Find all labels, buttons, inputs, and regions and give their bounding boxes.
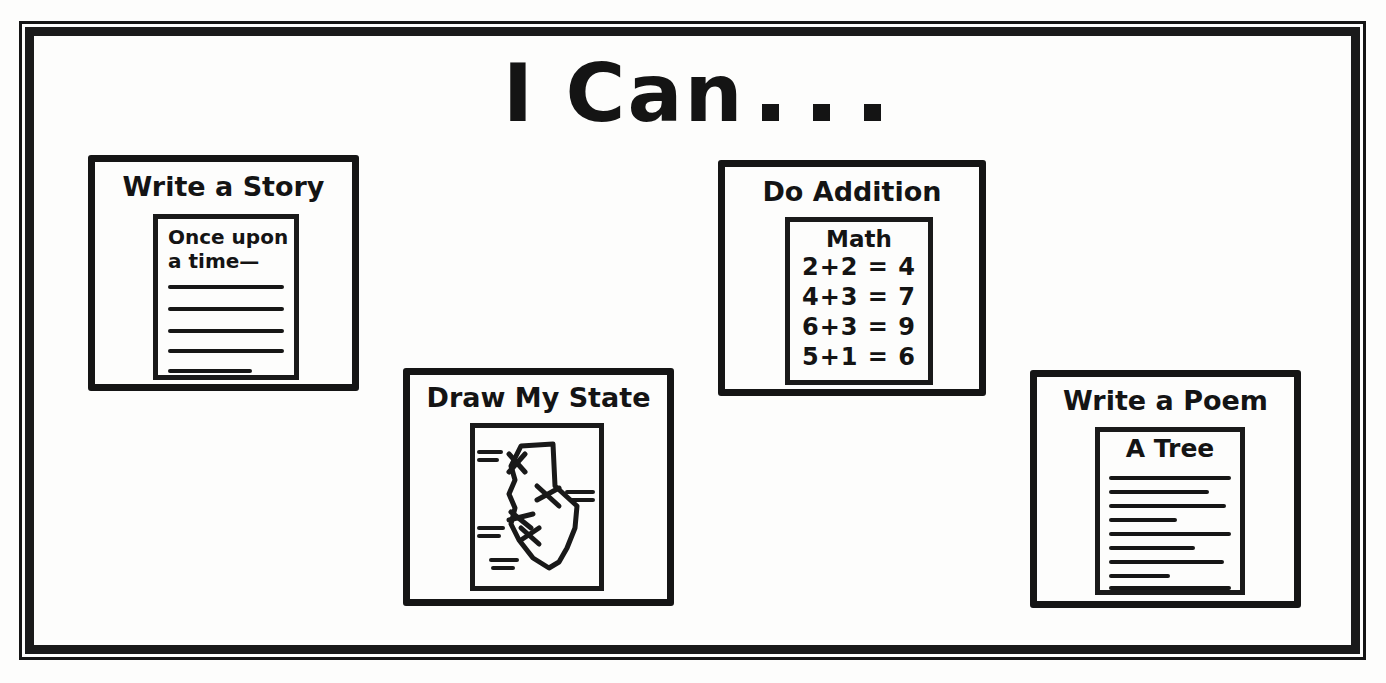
story-rule-1	[168, 285, 284, 289]
story-paper: Once upon a time—	[153, 214, 299, 380]
scan-edge-artifact	[0, 663, 1386, 683]
story-rule-4	[168, 349, 284, 353]
state-drawing-paper	[470, 423, 604, 591]
story-rule-3	[168, 329, 284, 333]
poem-rule-3	[1109, 504, 1226, 508]
math-problem-1: 2+2 = 4	[790, 254, 928, 280]
panel-do-addition[interactable]: Do Addition Math 2+2 = 4 4+3 = 7 6+3 = 9…	[718, 160, 986, 396]
poem-rule-4	[1109, 518, 1177, 522]
poem-rule-7	[1109, 560, 1224, 564]
math-problem-4: 5+1 = 6	[790, 344, 928, 370]
state-outline-icon	[475, 428, 599, 586]
math-problem-2: 4+3 = 7	[790, 284, 928, 310]
poem-rule-9	[1109, 586, 1231, 590]
panel-title-write-a-poem: Write a Poem	[1037, 386, 1294, 416]
math-heading: Math	[790, 226, 928, 252]
poem-rule-6	[1109, 546, 1195, 550]
poem-rule-1	[1109, 476, 1231, 480]
story-text-line-2: a time—	[168, 249, 259, 273]
panel-write-a-story[interactable]: Write a Story Once upon a time—	[88, 155, 359, 391]
poem-rule-5	[1109, 532, 1231, 536]
panel-draw-my-state[interactable]: Draw My State	[403, 368, 674, 606]
story-text-line-1: Once upon	[168, 225, 288, 249]
poem-rule-8	[1109, 574, 1170, 578]
panel-title-draw-my-state: Draw My State	[410, 383, 667, 413]
poem-paper: A Tree	[1095, 427, 1245, 595]
poem-rule-2	[1109, 490, 1209, 494]
worksheet-page: I Can Write a Story Once upon a time— Do…	[0, 0, 1386, 683]
panel-title-do-addition: Do Addition	[725, 177, 979, 207]
story-rule-5	[168, 369, 252, 373]
math-paper: Math 2+2 = 4 4+3 = 7 6+3 = 9 5+1 = 6	[785, 217, 933, 385]
math-problem-3: 6+3 = 9	[790, 314, 928, 340]
poem-heading: A Tree	[1100, 436, 1240, 462]
panel-title-write-a-story: Write a Story	[95, 172, 352, 202]
story-rule-2	[168, 307, 284, 311]
panel-write-a-poem[interactable]: Write a Poem A Tree	[1030, 370, 1301, 608]
